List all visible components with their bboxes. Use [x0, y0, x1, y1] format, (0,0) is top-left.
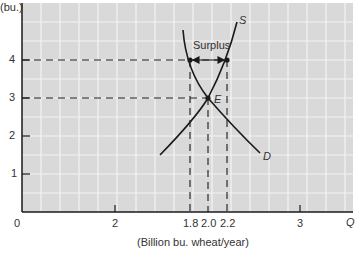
surplus-label: Surplus — [193, 39, 230, 51]
x-tick-3: 3 — [297, 217, 303, 229]
y-tick-2: 2 — [9, 129, 15, 141]
x-tick-2: 2 — [112, 217, 118, 229]
demand-label: D — [263, 150, 271, 162]
supply-label: S — [239, 14, 246, 26]
y-tick-3: 3 — [9, 91, 15, 103]
x-axis-label: (Billion bu. wheat/year) — [137, 236, 249, 248]
origin-label: 0 — [14, 217, 20, 229]
x-tick-2-2: 2.2 — [220, 217, 235, 229]
equilibrium-label: E — [214, 93, 221, 105]
chart-canvas — [0, 0, 360, 253]
y-tick-4: 4 — [9, 53, 15, 65]
x-tick-2-0: 2.0 — [201, 217, 216, 229]
y-axis-unit: (bu.) — [0, 1, 23, 13]
surplus-point-demand — [187, 57, 192, 62]
x-tick-1-8: 1.8 — [183, 217, 198, 229]
y-tick-1: 1 — [11, 167, 17, 179]
x-axis-symbol: Q — [346, 216, 355, 228]
plot-area — [22, 3, 353, 212]
equilibrium-point — [205, 95, 210, 100]
surplus-point-supply — [224, 57, 229, 62]
